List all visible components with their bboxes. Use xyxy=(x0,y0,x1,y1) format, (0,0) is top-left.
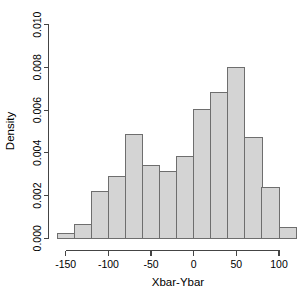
histogram-bar xyxy=(211,92,228,238)
y-axis-tick-label: 0.010 xyxy=(31,11,43,37)
histogram-bar xyxy=(177,157,194,239)
y-axis: 0.0000.0020.0040.0060.0080.010 Density xyxy=(4,11,49,251)
x-axis-tick-labels: -150-100-50050100 xyxy=(55,258,288,270)
x-axis-ticks xyxy=(66,251,279,256)
x-axis: -150-100-50050100 Xbar-Ybar xyxy=(55,251,288,289)
histogram-bar xyxy=(143,165,160,238)
histogram-bar xyxy=(160,172,177,239)
y-axis-title: Density xyxy=(4,112,16,151)
histogram-bar xyxy=(262,187,279,238)
histogram-bar xyxy=(245,137,262,238)
y-axis-tick-label: 0.000 xyxy=(31,225,43,251)
x-axis-tick-label: 50 xyxy=(230,258,242,270)
histogram-bars xyxy=(57,67,296,238)
x-axis-tick-label: -100 xyxy=(98,258,119,270)
histogram-bar xyxy=(125,135,142,239)
y-axis-tick-label: 0.006 xyxy=(31,97,43,123)
histogram-bar xyxy=(91,191,108,238)
x-axis-tick-label: -50 xyxy=(143,258,158,270)
plot-canvas: 0.0000.0020.0040.0060.0080.010 Density -… xyxy=(0,0,303,297)
histogram-bar xyxy=(74,224,91,238)
y-axis-tick-label: 0.002 xyxy=(31,182,43,208)
histogram-bar xyxy=(228,67,245,238)
histogram-bar xyxy=(108,176,125,238)
y-axis-ticks xyxy=(44,25,49,239)
y-axis-tick-labels: 0.0000.0020.0040.0060.0080.010 xyxy=(31,11,43,251)
histogram-bar xyxy=(279,228,296,239)
x-axis-tick-label: 100 xyxy=(270,258,288,270)
x-axis-tick-label: 0 xyxy=(191,258,197,270)
histogram-bar xyxy=(194,110,211,239)
x-axis-tick-label: -150 xyxy=(55,258,76,270)
y-axis-tick-label: 0.008 xyxy=(31,54,43,80)
histogram-figure: 0.0000.0020.0040.0060.0080.010 Density -… xyxy=(0,0,303,297)
x-axis-title: Xbar-Ybar xyxy=(152,276,205,288)
histogram-bar xyxy=(57,233,74,238)
y-axis-tick-label: 0.004 xyxy=(31,140,43,166)
